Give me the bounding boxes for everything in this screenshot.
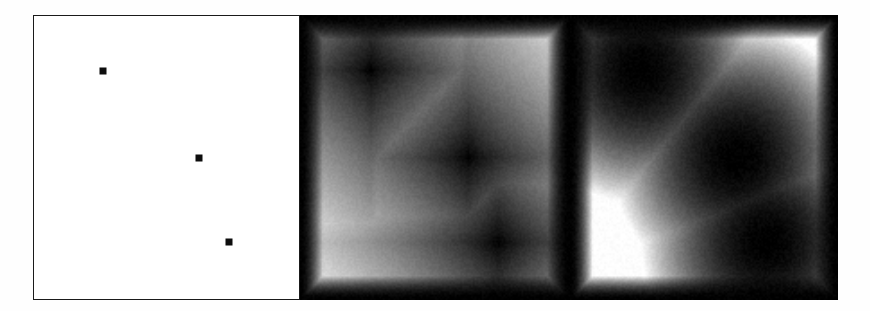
manhattan-field-canvas bbox=[300, 15, 570, 300]
seed-point-marker bbox=[225, 238, 232, 245]
euclidean-field-canvas bbox=[570, 15, 838, 300]
distance-transform-figure bbox=[0, 0, 870, 311]
panel-manhattan-distance-field bbox=[300, 15, 570, 300]
seed-point-marker bbox=[195, 154, 202, 161]
panel-euclidean-distance-field bbox=[570, 15, 838, 300]
panel-point-set bbox=[33, 15, 300, 300]
seed-point-marker bbox=[100, 67, 107, 74]
